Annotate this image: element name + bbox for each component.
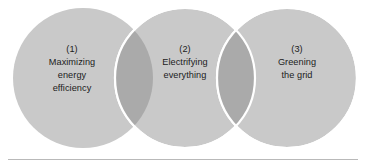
- circle-3-text-line-2: the grid: [247, 69, 347, 82]
- circle-1-label: (1) Maximizing energy efficiency: [22, 43, 122, 95]
- circle-2-text-line-2: everything: [135, 69, 235, 82]
- circle-2-text-line-1: Electrifying: [135, 56, 235, 69]
- circle-1-text-line-1: Maximizing: [22, 56, 122, 69]
- circle-3-label: (3) Greening the grid: [247, 43, 347, 82]
- circle-3-number: (3): [247, 43, 347, 56]
- circle-3-text-line-1: Greening: [247, 56, 347, 69]
- circle-2-number: (2): [135, 43, 235, 56]
- circle-1-text-line-2: energy: [22, 69, 122, 82]
- circle-1-number: (1): [22, 43, 122, 56]
- circle-1-text-line-3: efficiency: [22, 82, 122, 95]
- horizontal-divider: [8, 159, 358, 160]
- circle-2-label: (2) Electrifying everything: [135, 43, 235, 82]
- venn-diagram-figure: (1) Maximizing energy efficiency (2) Ele…: [0, 0, 369, 167]
